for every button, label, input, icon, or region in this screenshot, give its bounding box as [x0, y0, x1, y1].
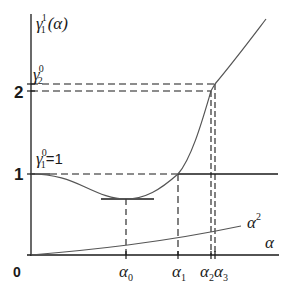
alpha-squared-curve — [31, 226, 241, 255]
x-tick-alpha3-base: α — [214, 262, 223, 281]
x-tick-label-alpha2-alpha3: α2α3 — [200, 263, 228, 283]
level-label-gamma1-eq: =1 — [46, 150, 63, 167]
x-tick-label-alpha0: α0 — [119, 263, 133, 283]
y-axis-label-arg: (α) — [48, 14, 68, 33]
alpha-squared-base: α — [247, 213, 256, 232]
x-axis-label: α — [265, 234, 274, 251]
y-tick-label-1: 1 — [14, 166, 23, 183]
x-tick-alpha0-base: α — [119, 262, 128, 281]
y-tick-label-2: 2 — [14, 84, 23, 101]
alpha-squared-sup: 2 — [256, 211, 261, 222]
gamma-curve — [31, 19, 266, 199]
x-tick-alpha2-base: α — [200, 262, 209, 281]
x-tick-alpha3-sub: 3 — [223, 272, 228, 283]
level-label-gamma2: γ02 — [33, 64, 43, 86]
origin-label: 0 — [13, 265, 21, 279]
y-axis-label: γ11(α) — [36, 13, 68, 35]
level-label-gamma1: γ01=1 — [36, 148, 63, 170]
x-tick-alpha1-sub: 1 — [181, 272, 186, 283]
alpha-squared-label: α2 — [247, 212, 261, 231]
y-axis-label-sub: 1 — [41, 24, 46, 35]
y-axis-label-sup: 1 — [42, 12, 47, 23]
level-label-gamma2-sub: 2 — [38, 75, 43, 86]
level-label-gamma2-sup: 0 — [39, 63, 44, 74]
x-tick-alpha1-base: α — [172, 262, 181, 281]
x-tick-alpha0-sub: 0 — [128, 272, 133, 283]
x-tick-label-alpha1: α1 — [172, 263, 186, 283]
